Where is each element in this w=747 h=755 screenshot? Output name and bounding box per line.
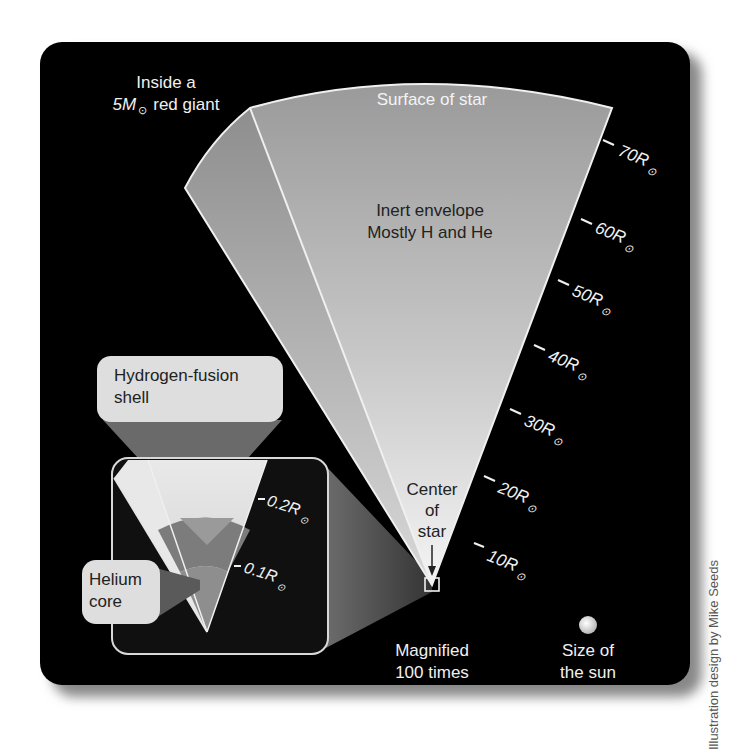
title-line-1: Inside a [136, 73, 196, 92]
surface-label: Surface of star [377, 90, 488, 109]
illustration-credit: Illustration design by Mike Seeds [706, 560, 721, 750]
center-label-2: of [425, 501, 439, 520]
helium-label-2: core [89, 592, 122, 611]
sun-size-label-2: the sun [560, 663, 616, 682]
sun-size-label-1: Size of [562, 641, 614, 660]
sun-size-icon [579, 616, 597, 634]
magnified-label-2: 100 times [395, 663, 469, 682]
magnified-label-1: Magnified [395, 641, 469, 660]
red-giant-diagram: 10R⊙ 20R⊙ 30R⊙ 40R⊙ 50R⊙ 60R⊙ 70R⊙ Insid… [0, 0, 747, 755]
hydrogen-label-2: shell [114, 388, 149, 407]
envelope-label-1: Inert envelope [376, 201, 484, 220]
center-label-1: Center [406, 480, 457, 499]
title-line-2: 5M⊙red giant [113, 95, 220, 116]
center-label-3: star [418, 522, 447, 541]
hydrogen-label-1: Hydrogen-fusion [114, 366, 239, 385]
envelope-label-2: Mostly H and He [367, 223, 493, 242]
helium-label-1: Helium [89, 570, 142, 589]
